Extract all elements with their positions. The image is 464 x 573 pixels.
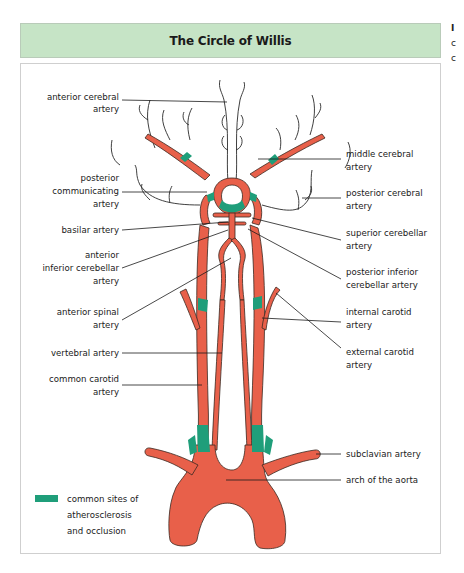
fine-cerebral-branches <box>111 80 350 210</box>
svg-text:artery: artery <box>346 360 372 370</box>
left-labels: anterior cerebral artery posterior commu… <box>42 92 119 397</box>
legend-text: common sites of <box>67 494 139 504</box>
svg-text:communicating: communicating <box>52 186 119 196</box>
svg-text:artery: artery <box>93 199 119 209</box>
label-external-carotid: external carotid <box>346 347 414 357</box>
legend: common sites of atherosclerosis and occl… <box>35 494 139 536</box>
leader-lines <box>122 100 341 480</box>
svg-text:artery: artery <box>346 241 372 251</box>
label-posterior-communicating: posterior <box>80 173 119 183</box>
svg-text:artery: artery <box>346 162 372 172</box>
label-superior-cerebellar: superior cerebellar <box>346 228 428 238</box>
svg-text:and occlusion: and occlusion <box>67 526 126 536</box>
label-anterior-cerebral: anterior cerebral <box>47 92 119 102</box>
label-posterior-inferior-cerebellar: posterior inferior <box>346 267 419 277</box>
svg-text:inferior cerebellar: inferior cerebellar <box>42 263 119 273</box>
svg-text:atherosclerosis: atherosclerosis <box>67 510 132 520</box>
svg-text:artery: artery <box>93 387 119 397</box>
svg-text:artery: artery <box>93 320 119 330</box>
label-middle-cerebral: middle cerebral <box>346 149 413 159</box>
right-labels: middle cerebral artery posterior cerebra… <box>346 149 428 485</box>
label-arch-aorta: arch of the aorta <box>346 475 418 485</box>
circle-of-willis-diagram: anterior cerebral artery posterior commu… <box>0 0 464 573</box>
label-vertebral: vertebral artery <box>51 348 119 358</box>
label-subclavian: subclavian artery <box>346 449 421 459</box>
svg-text:artery: artery <box>346 201 372 211</box>
svg-text:artery: artery <box>93 104 119 114</box>
label-anterior-inferior-cerebellar: anterior <box>85 250 120 260</box>
svg-text:artery: artery <box>93 276 119 286</box>
svg-text:cerebellar artery: cerebellar artery <box>346 280 418 290</box>
label-anterior-spinal: anterior spinal <box>57 307 119 317</box>
label-basilar: basilar artery <box>61 225 119 235</box>
legend-swatch <box>35 495 58 502</box>
label-posterior-cerebral: posterior cerebral <box>346 188 423 198</box>
svg-text:artery: artery <box>346 320 372 330</box>
label-internal-carotid: internal carotid <box>346 307 412 317</box>
label-common-carotid: common carotid <box>49 374 119 384</box>
